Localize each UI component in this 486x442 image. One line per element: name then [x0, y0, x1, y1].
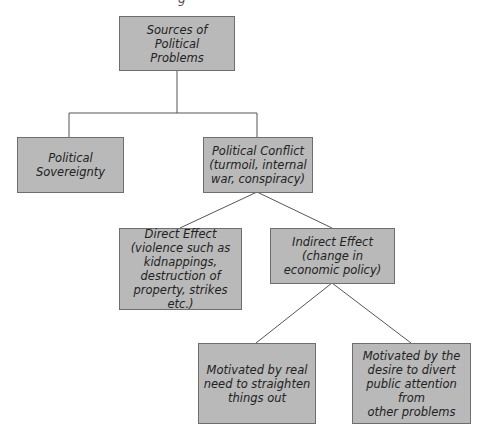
node-label: Political Conflict (turmoil, internal wa… — [209, 144, 306, 186]
node-direct-effect: Direct Effect (violence such as kidnappi… — [119, 228, 242, 310]
node-motivated-real-need: Motivated by real need to straighten thi… — [198, 343, 316, 424]
node-sources-of-political-problems: Sources of Political Problems — [119, 16, 235, 71]
node-label: Direct Effect (violence such as kidnappi… — [124, 227, 237, 311]
node-label: Motivated by the desire to divert public… — [357, 349, 466, 419]
node-political-sovereignty: Political Sovereignty — [17, 137, 124, 193]
node-motivated-divert-attention: Motivated by the desire to divert public… — [352, 343, 471, 424]
node-label: Motivated by real need to straighten thi… — [204, 363, 311, 405]
node-political-conflict: Political Conflict (turmoil, internal wa… — [203, 137, 313, 193]
node-label: Political Sovereignty — [36, 151, 105, 179]
node-label: Indirect Effect (change in economic poli… — [284, 235, 381, 277]
node-indirect-effect: Indirect Effect (change in economic poli… — [270, 228, 395, 284]
node-label: Sources of Political Problems — [147, 23, 207, 65]
